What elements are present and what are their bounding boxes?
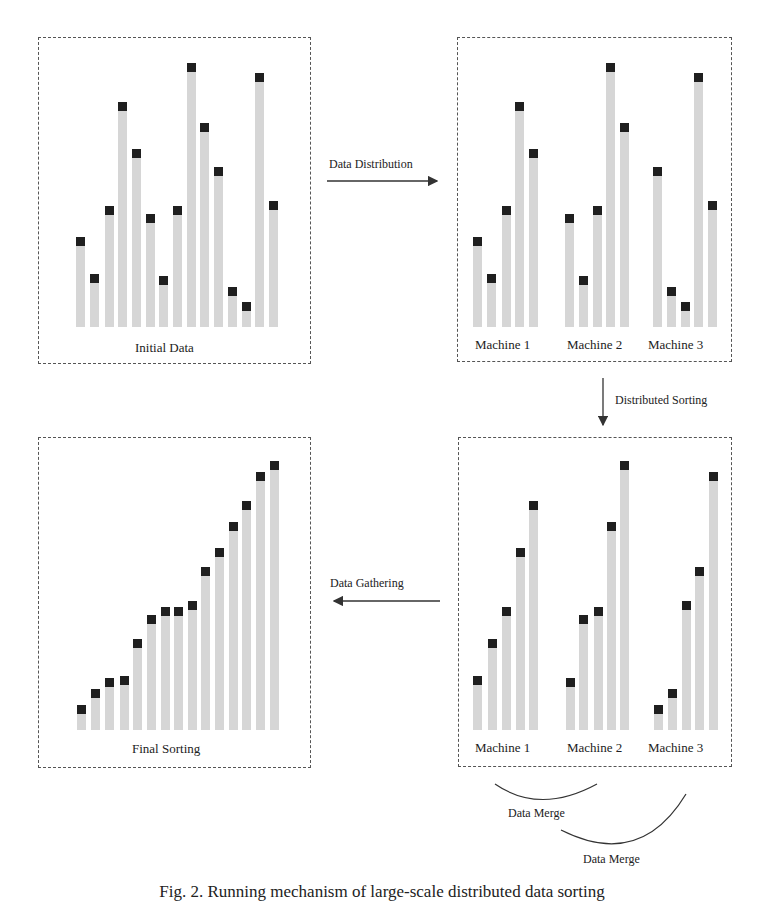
figure-caption: Fig. 2. Running mechanism of large-scale… [0,882,764,902]
merge-arc-2 [561,794,686,844]
distribution-arrow-label: Data Distribution [329,157,413,172]
merge-label-1: Data Merge [508,806,565,821]
gathering-arrow-label: Data Gathering [330,576,404,591]
merge-arc-1 [495,784,597,800]
arrows-overlay [0,0,764,902]
sorting-arrow-label: Distributed Sorting [615,393,707,408]
merge-label-2: Data Merge [583,852,640,867]
